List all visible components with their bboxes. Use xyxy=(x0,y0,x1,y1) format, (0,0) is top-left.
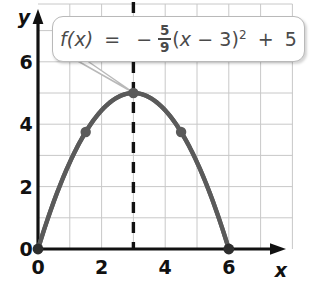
x-tick-label-6: 6 xyxy=(222,256,235,278)
x-tick-label-0: 0 xyxy=(31,256,44,278)
y-axis-arrow xyxy=(33,9,44,24)
x-tick-label-2: 2 xyxy=(95,256,108,278)
y-tick-label-6: 6 xyxy=(19,51,32,73)
y-tick-label-2: 2 xyxy=(19,176,32,198)
equation-open-paren: ( xyxy=(172,28,180,50)
x-axis-label: x xyxy=(274,259,288,281)
equation-close-paren: ) xyxy=(231,28,239,50)
equation-shift: 3 xyxy=(219,28,231,50)
equation-fraction: 5 9 xyxy=(158,24,171,55)
point-x-intercept-6 xyxy=(223,244,234,255)
point-x-intercept-0 xyxy=(33,244,44,255)
equation-minus: − xyxy=(136,28,152,50)
equation-equals: = xyxy=(104,28,120,50)
equation-plus: + xyxy=(258,28,274,50)
x-axis-arrow xyxy=(270,243,286,255)
equation-variable: x xyxy=(180,28,191,50)
equation-callout: f(x) = − 5 9 ( x − 3 ) 2 + 5 xyxy=(52,16,305,62)
equation-lhs: f(x) xyxy=(60,28,93,50)
fraction-numerator: 5 xyxy=(159,24,171,39)
y-axis-label: y xyxy=(18,6,32,28)
y-tick-label-0: 0 xyxy=(19,238,32,260)
equation-text: f(x) = − 5 9 ( x − 3 ) 2 + 5 xyxy=(60,24,297,55)
equation-inner-minus: − xyxy=(197,28,213,50)
point-right xyxy=(176,127,186,137)
graph-figure: 0 2 4 6 0 2 4 6 x y f(x) = − 5 9 ( xyxy=(0,0,317,283)
equation-constant: 5 xyxy=(285,28,297,50)
y-tick-label-4: 4 xyxy=(19,113,32,135)
point-vertex xyxy=(128,88,138,98)
equation-exponent: 2 xyxy=(239,28,247,42)
callout-tail xyxy=(76,59,134,93)
x-tick-label-4: 4 xyxy=(159,256,172,278)
fraction-denominator: 9 xyxy=(159,40,171,55)
point-left xyxy=(81,127,91,137)
